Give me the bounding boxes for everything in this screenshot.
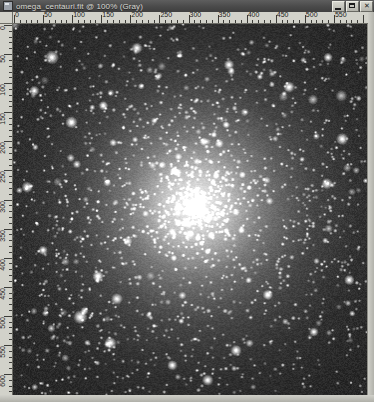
ruler-tick bbox=[9, 240, 12, 241]
window-bottom-edge bbox=[0, 395, 374, 402]
ruler-tick bbox=[9, 263, 12, 264]
ruler-tick bbox=[9, 351, 12, 352]
ruler-tick bbox=[322, 20, 323, 23]
ruler-tick bbox=[9, 362, 12, 363]
ruler-tick bbox=[9, 327, 12, 328]
ruler-tick bbox=[148, 20, 149, 23]
ruler-tick bbox=[9, 95, 12, 96]
window-titlebar[interactable]: omega_centauri.fit @ 100% (Gray) ✕ bbox=[0, 0, 374, 12]
ruler-tick bbox=[9, 42, 12, 43]
ruler-tick bbox=[165, 20, 166, 23]
astronomical-image[interactable] bbox=[13, 24, 367, 395]
ruler-label: 450 bbox=[0, 288, 7, 301]
ruler-label: 350 bbox=[218, 12, 231, 19]
ruler-tick bbox=[9, 298, 12, 299]
ruler-tick bbox=[90, 20, 91, 23]
ruler-tick bbox=[113, 20, 114, 23]
horizontal-ruler[interactable]: 050100150200250300350400450500550 bbox=[13, 12, 374, 24]
ruler-label: 350 bbox=[0, 230, 7, 243]
image-canvas[interactable] bbox=[13, 24, 368, 395]
ruler-tick bbox=[9, 310, 12, 311]
ruler-tick bbox=[346, 20, 347, 23]
close-button[interactable]: ✕ bbox=[360, 1, 373, 12]
ruler-tick bbox=[9, 66, 12, 67]
ruler-label: 600 bbox=[0, 375, 7, 388]
ruler-label: 0 bbox=[14, 12, 19, 19]
ruler-tick bbox=[9, 368, 12, 369]
ruler-tick bbox=[9, 380, 12, 381]
window-right-edge bbox=[368, 12, 374, 402]
ruler-tick bbox=[154, 20, 155, 23]
ruler-tick bbox=[363, 15, 364, 23]
ruler-tick bbox=[9, 101, 12, 102]
ruler-tick bbox=[183, 20, 184, 23]
ruler-label: 50 bbox=[0, 55, 7, 64]
ruler-tick bbox=[311, 20, 312, 23]
ruler-tick bbox=[9, 304, 12, 305]
ruler-tick bbox=[9, 77, 12, 78]
ruler-tick bbox=[95, 20, 96, 23]
ruler-tick bbox=[9, 339, 12, 340]
ruler-tick bbox=[206, 20, 207, 23]
ruler-tick bbox=[9, 159, 12, 160]
ruler-tick bbox=[61, 20, 62, 23]
minimize-button[interactable] bbox=[332, 1, 345, 12]
ruler-label: 550 bbox=[0, 346, 7, 359]
ruler-tick bbox=[9, 106, 12, 107]
ruler-tick bbox=[9, 217, 12, 218]
ruler-tick bbox=[9, 223, 12, 224]
ruler-tick bbox=[9, 130, 12, 131]
ruler-label: 400 bbox=[0, 259, 7, 272]
ruler-tick bbox=[9, 165, 12, 166]
ruler-tick bbox=[9, 72, 12, 73]
ruler-tick bbox=[287, 20, 288, 23]
ruler-label: 50 bbox=[43, 12, 52, 19]
ruler-tick bbox=[270, 20, 271, 23]
ruler-tick bbox=[9, 136, 12, 137]
ruler-label: 250 bbox=[159, 12, 172, 19]
ruler-tick bbox=[20, 20, 21, 23]
ruler-tick bbox=[9, 31, 12, 32]
ruler-tick bbox=[55, 20, 56, 23]
ruler-tick bbox=[9, 275, 12, 276]
ruler-label: 150 bbox=[0, 113, 7, 126]
ruler-label: 250 bbox=[0, 171, 7, 184]
ruler-tick bbox=[9, 211, 12, 212]
ruler-tick bbox=[9, 386, 12, 387]
ruler-tick bbox=[171, 20, 172, 23]
ruler-tick bbox=[328, 20, 329, 23]
ruler-tick bbox=[78, 20, 79, 23]
ruler-tick bbox=[252, 20, 253, 23]
ruler-corner[interactable] bbox=[0, 12, 13, 24]
ruler-tick bbox=[9, 234, 12, 235]
ruler-tick bbox=[241, 20, 242, 23]
ruler-tick bbox=[299, 20, 300, 23]
ruler-tick bbox=[9, 176, 12, 177]
vertical-ruler[interactable]: 050100150200250300350400450500550600 bbox=[0, 24, 13, 402]
ruler-tick bbox=[9, 124, 12, 125]
ruler-tick bbox=[31, 20, 32, 23]
ruler-tick bbox=[212, 20, 213, 23]
ruler-label: 0 bbox=[0, 26, 7, 31]
ruler-label: 200 bbox=[130, 12, 143, 19]
ruler-tick bbox=[107, 20, 108, 23]
ruler-tick bbox=[125, 20, 126, 23]
ruler-label: 300 bbox=[0, 201, 7, 214]
ruler-tick bbox=[142, 20, 143, 23]
close-icon: ✕ bbox=[361, 2, 372, 9]
ruler-tick bbox=[9, 89, 12, 90]
ruler-tick bbox=[9, 322, 12, 323]
ruler-label: 550 bbox=[334, 12, 347, 19]
ruler-tick bbox=[282, 20, 283, 23]
ruler-tick bbox=[9, 60, 12, 61]
ruler-tick bbox=[316, 20, 317, 23]
ruler-tick bbox=[258, 20, 259, 23]
ruler-tick bbox=[26, 20, 27, 23]
ruler-tick bbox=[293, 20, 294, 23]
ruler-tick bbox=[9, 147, 12, 148]
ruler-tick bbox=[9, 269, 12, 270]
ruler-tick bbox=[37, 20, 38, 23]
ruler-tick bbox=[9, 252, 12, 253]
maximize-button[interactable] bbox=[346, 1, 359, 12]
ruler-tick bbox=[351, 20, 352, 23]
